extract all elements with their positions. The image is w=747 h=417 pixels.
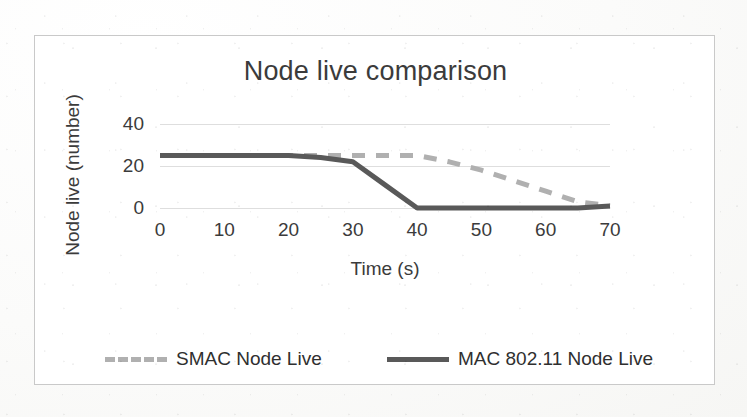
- x-tick-label-70: 70: [593, 220, 627, 239]
- x-tick-label-50: 50: [464, 220, 498, 239]
- legend-swatch-smac: [105, 357, 167, 362]
- series-line-smac: [160, 156, 610, 206]
- x-axis-title: Time (s): [160, 258, 610, 280]
- legend-item-smac: SMAC Node Live: [105, 348, 322, 370]
- legend-item-mac: MAC 802.11 Node Live: [387, 348, 653, 370]
- series-plot: [160, 124, 610, 208]
- plot-area: 40 20 0 0 10 20 30 40 50 60 70: [160, 124, 610, 208]
- chart-legend: SMAC Node Live MAC 802.11 Node Live: [35, 348, 716, 378]
- x-tick-label-0: 0: [143, 220, 177, 239]
- legend-label-smac: SMAC Node Live: [176, 348, 322, 370]
- chart-title: Node live comparison: [35, 56, 716, 87]
- chart-frame: Node live comparison Node live (number) …: [34, 35, 715, 385]
- y-tick-label-20: 20: [104, 156, 144, 175]
- x-tick-label-60: 60: [529, 220, 563, 239]
- figure-root: Node live comparison Node live (number) …: [0, 0, 747, 417]
- x-tick-label-20: 20: [272, 220, 306, 239]
- x-tick-label-30: 30: [336, 220, 370, 239]
- legend-label-mac: MAC 802.11 Node Live: [458, 348, 653, 370]
- x-tick-label-40: 40: [400, 220, 434, 239]
- x-tick-label-10: 10: [207, 220, 241, 239]
- y-axis-title: Node live (number): [62, 60, 84, 290]
- y-tick-label-40: 40: [104, 114, 144, 133]
- legend-swatch-mac: [387, 357, 449, 362]
- y-tick-label-0: 0: [104, 198, 144, 217]
- series-line-mac: [160, 156, 610, 209]
